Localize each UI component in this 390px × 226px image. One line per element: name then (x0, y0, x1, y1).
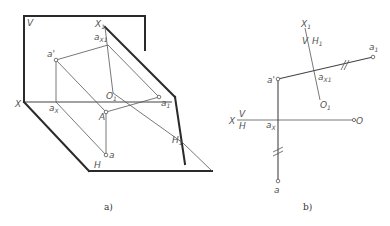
label-a1-b: a1 (369, 42, 378, 53)
label-a-prime-b: a' (267, 75, 275, 85)
label-ax: aX (49, 103, 60, 114)
point-a-prime-b (276, 77, 280, 81)
label-X1-b: X1 (300, 19, 311, 30)
label-A: A (98, 112, 105, 122)
label-V: V (27, 18, 34, 28)
label-H-lower-b: H (239, 121, 246, 131)
label-X: X (14, 99, 22, 109)
figure-a: V X H X1 aX1 a' aX O1 a1 A a H1 a) (14, 16, 212, 212)
equal-marks-upper (341, 60, 349, 70)
point-a (104, 153, 108, 157)
label-X1: X1 (94, 19, 105, 30)
point-a1-b (371, 55, 375, 59)
caption-a: a) (104, 202, 113, 212)
label-O-b: O (356, 116, 363, 126)
label-H1-b: H1 (312, 36, 323, 47)
label-a: a (109, 150, 115, 160)
label-X-b: X (228, 116, 236, 126)
projection-diagram: V X H X1 aX1 a' aX O1 a1 A a H1 a) (0, 0, 390, 226)
figure-b: X1 V H1 a1 a' aX1 O1 X V H aX O a b) (228, 19, 378, 212)
label-O1-b: O1 (320, 100, 331, 111)
point-a-b (276, 179, 280, 183)
label-a1: a1 (161, 98, 170, 109)
label-ax-b: aX (266, 120, 277, 131)
label-a-prime: a' (47, 49, 55, 59)
label-V-lower-b: V (239, 109, 246, 119)
label-H: H (94, 160, 101, 170)
caption-b: b) (303, 202, 312, 212)
label-ax1-b: aX1 (318, 72, 331, 83)
label-O1: O1 (106, 91, 117, 102)
label-V-b: V (302, 36, 309, 46)
label-a-b: a (274, 185, 280, 195)
